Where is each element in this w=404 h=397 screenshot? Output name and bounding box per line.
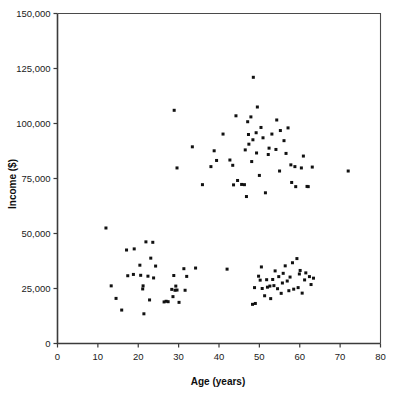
data-point: [298, 272, 301, 275]
y-tick-label: 0: [45, 338, 50, 349]
data-point: [274, 269, 277, 272]
data-point: [115, 297, 118, 300]
data-point: [256, 106, 259, 109]
data-point: [304, 271, 307, 274]
data-point: [184, 289, 187, 292]
x-tick-label: 10: [93, 351, 104, 362]
data-point: [272, 284, 275, 287]
data-point: [287, 126, 290, 129]
x-tick-label: 70: [335, 351, 346, 362]
data-point: [282, 272, 285, 275]
data-point: [303, 278, 306, 281]
data-point: [149, 257, 152, 260]
data-point: [295, 257, 298, 260]
data-point: [268, 285, 271, 288]
data-point: [110, 284, 113, 287]
data-point: [255, 151, 258, 154]
data-point: [213, 149, 216, 152]
data-point: [264, 191, 267, 194]
data-point: [132, 273, 135, 276]
data-point: [251, 138, 254, 141]
data-point: [287, 289, 290, 292]
data-point: [275, 118, 278, 121]
data-point: [257, 275, 260, 278]
data-point: [148, 298, 151, 301]
data-point: [146, 275, 149, 278]
data-point: [142, 284, 145, 287]
data-point: [151, 241, 154, 244]
x-tick-label: 20: [133, 351, 144, 362]
data-point: [280, 292, 283, 295]
data-point: [228, 159, 231, 162]
data-point: [265, 278, 268, 281]
x-tick-label: 60: [294, 351, 305, 362]
data-point: [215, 159, 218, 162]
data-point: [259, 279, 262, 282]
data-point: [191, 145, 194, 148]
data-point: [178, 301, 181, 304]
scatter-plot-figure: 025,00050,00075,000100,000125,000150,000…: [0, 0, 404, 397]
data-point: [284, 264, 287, 267]
data-point: [300, 166, 303, 169]
data-point: [274, 148, 277, 151]
data-point: [176, 289, 179, 292]
data-point: [244, 148, 247, 151]
data-point: [104, 227, 107, 230]
data-point: [141, 287, 144, 290]
data-point: [126, 274, 129, 277]
x-tick-label: 40: [214, 351, 225, 362]
data-point: [261, 287, 264, 290]
data-point: [310, 283, 313, 286]
data-point: [120, 309, 123, 312]
data-point: [263, 294, 266, 297]
data-point: [182, 267, 185, 270]
data-point: [270, 133, 273, 136]
data-point: [144, 240, 147, 243]
data-point: [201, 183, 204, 186]
x-tick-label: 50: [254, 351, 265, 362]
data-point: [185, 275, 188, 278]
data-point: [281, 282, 284, 285]
y-tick-label: 150,000: [16, 8, 50, 19]
data-point: [267, 153, 270, 156]
data-point: [285, 152, 288, 155]
data-point: [260, 265, 263, 268]
data-point: [268, 147, 271, 150]
data-point: [226, 268, 229, 271]
data-point: [247, 143, 250, 146]
y-tick-label: 25,000: [21, 283, 50, 294]
data-point: [172, 274, 175, 277]
axis-frame: [58, 14, 381, 344]
data-point: [252, 76, 255, 79]
y-tick-label: 50,000: [21, 228, 50, 239]
data-point: [259, 126, 262, 129]
data-point: [278, 170, 281, 173]
data-point: [133, 247, 136, 250]
x-tick-label: 0: [55, 351, 60, 362]
data-point: [299, 269, 302, 272]
data-point: [232, 183, 235, 186]
data-point: [231, 164, 234, 167]
data-point: [302, 155, 305, 158]
plot-canvas: 025,00050,00075,000100,000125,000150,000…: [0, 0, 404, 397]
data-point: [347, 170, 350, 173]
data-point: [170, 288, 173, 291]
data-point: [139, 274, 142, 277]
data-point: [276, 287, 279, 290]
data-point: [236, 179, 239, 182]
data-point: [297, 286, 300, 289]
data-point: [247, 133, 250, 136]
data-point: [301, 292, 304, 295]
data-point: [209, 165, 212, 168]
data-point: [286, 280, 289, 283]
data-point: [194, 267, 197, 270]
data-points-group: [104, 76, 349, 315]
data-point: [293, 165, 296, 168]
data-point: [249, 115, 252, 118]
data-point: [312, 277, 315, 280]
y-axis-title: Income ($): [7, 159, 18, 209]
data-point: [289, 163, 292, 166]
y-axis-tick-labels: 025,00050,00075,000100,000125,000150,000: [16, 8, 50, 349]
data-point: [253, 286, 256, 289]
data-point: [234, 114, 237, 117]
